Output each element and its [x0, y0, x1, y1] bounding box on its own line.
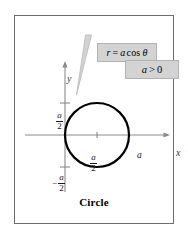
fraction-denominator: 2 — [90, 164, 97, 173]
y-axis-arrowhead — [62, 61, 67, 68]
x-axis-arrowhead — [164, 132, 171, 137]
callout-condition-box: a>0 — [125, 60, 179, 79]
condition-a-symbol: a — [142, 64, 147, 75]
fraction-a-over-2: a 2 — [90, 153, 97, 173]
figure-container: r=acosθ a>0 y x a 2 − a 2 — [0, 0, 188, 235]
fraction-numerator: a — [58, 173, 65, 182]
equation-r-symbol: r — [106, 47, 110, 58]
equation-cos-operator: cos — [127, 47, 141, 58]
minus-sign: − — [52, 178, 57, 188]
x-axis-tick-label-a: a — [137, 150, 142, 160]
x-axis-tick-label-center: a 2 — [90, 153, 97, 173]
figure-frame: r=acosθ a>0 y x a 2 − a 2 — [14, 15, 174, 224]
y-axis-tick-label-negative: − a 2 — [52, 173, 65, 193]
fraction-denominator: 2 — [56, 122, 63, 131]
condition-relation-sign: > — [149, 64, 155, 75]
condition-value: 0 — [157, 64, 162, 75]
equation-theta-symbol: θ — [142, 47, 147, 58]
fraction-numerator: a — [90, 153, 97, 162]
callout-equation-text: r=acosθ — [106, 47, 147, 58]
x-axis-label: x — [176, 147, 180, 158]
y-axis-tick-label-positive: a 2 — [56, 111, 63, 131]
equation-equals-sign: = — [112, 47, 118, 58]
fraction-a-over-2: a 2 — [56, 111, 63, 131]
y-axis-label: y — [67, 73, 71, 84]
fraction-denominator: 2 — [58, 184, 65, 193]
figure-caption: Circle — [14, 196, 174, 208]
callout-condition-text: a>0 — [142, 64, 162, 75]
fraction-numerator: a — [56, 111, 63, 120]
equation-a-symbol: a — [120, 47, 125, 58]
fraction-neg-a-over-2: a 2 — [58, 173, 65, 193]
callout-leader-line — [77, 35, 92, 95]
